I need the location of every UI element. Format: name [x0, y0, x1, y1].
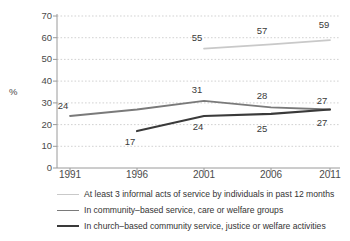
series-line-church-based	[137, 110, 330, 132]
chart-legend: At least 3 informal acts of service by i…	[0, 186, 350, 234]
y-axis-title: %	[9, 86, 17, 97]
legend-item-church-based[interactable]: In church–based community service, justi…	[0, 218, 350, 234]
legend-swatch-community-based	[57, 210, 79, 211]
y-tick-70: 70	[26, 11, 52, 21]
data-label-informal-2006: 57	[251, 26, 273, 36]
y-tick-50: 50	[26, 54, 52, 64]
y-axis-ticks	[53, 16, 57, 168]
data-label-informal-2011: 59	[313, 20, 335, 30]
x-tick-1991: 1991	[47, 169, 93, 181]
line-chart: % 70 60 50 40 30 20 10 0 1991 1996 2001 …	[0, 0, 350, 241]
data-label-community-2001: 31	[186, 85, 208, 95]
legend-swatch-informal-acts	[57, 194, 79, 195]
y-tick-40: 40	[26, 76, 52, 86]
series-line-informal-acts	[204, 40, 330, 49]
legend-item-informal-acts[interactable]: At least 3 informal acts of service by i…	[0, 186, 350, 202]
legend-item-community-based[interactable]: In community–based service, care or welf…	[0, 202, 350, 218]
legend-label-informal-acts: At least 3 informal acts of service by i…	[84, 189, 334, 199]
data-label-church-2006: 25	[251, 124, 273, 134]
x-tick-2011: 2011	[307, 169, 350, 181]
data-label-informal-2001: 55	[186, 33, 208, 43]
x-tick-2001: 2001	[181, 169, 227, 181]
x-tick-1996: 1996	[114, 169, 160, 181]
legend-label-community-based: In community–based service, care or welf…	[84, 205, 283, 215]
x-tick-2006: 2006	[248, 169, 294, 181]
y-tick-30: 30	[26, 98, 52, 108]
data-label-community-2011: 27	[311, 96, 333, 106]
data-label-community-2006: 28	[251, 91, 273, 101]
y-tick-60: 60	[26, 33, 52, 43]
data-label-church-2001: 24	[187, 122, 209, 132]
y-tick-20: 20	[26, 120, 52, 130]
series-line-community-based	[70, 101, 330, 116]
legend-swatch-church-based	[57, 225, 79, 227]
data-label-community-1991: 24	[52, 101, 74, 111]
legend-label-church-based: In church–based community service, justi…	[84, 221, 326, 231]
data-label-church-2011: 27	[311, 118, 333, 128]
data-label-church-1996: 17	[119, 137, 141, 147]
y-tick-10: 10	[26, 141, 52, 151]
